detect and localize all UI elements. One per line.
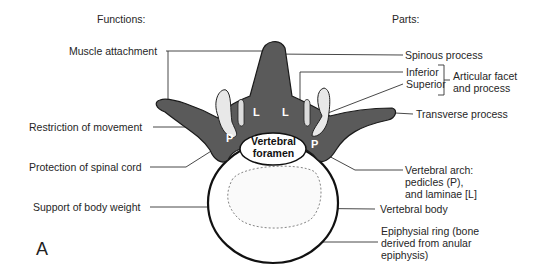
- lamina-label-left: L: [253, 106, 260, 118]
- lamina-label-right: L: [282, 106, 289, 118]
- function-muscle-attachment: Muscle attachment: [69, 45, 157, 57]
- left-inferior-facet: [238, 100, 244, 127]
- part-superior: Superior: [406, 78, 446, 90]
- figure-letter: A: [36, 239, 48, 260]
- part-inferior: Inferior: [406, 66, 439, 78]
- part-articular-facet: Articular facet and process: [453, 70, 517, 94]
- function-restriction-of-movement: Restriction of movement: [29, 121, 142, 133]
- part-vertebral-arch: Vertebral arch: pedicles (P), and lamina…: [405, 164, 477, 200]
- foramen-label: Vertebral foramen: [251, 135, 296, 159]
- pedicle-label-right: P: [311, 138, 318, 150]
- right-inferior-facet: [304, 100, 310, 127]
- body-cancellous: [228, 166, 321, 228]
- pedicle-label-left: P: [226, 132, 233, 144]
- part-vertebral-body: Vertebral body: [380, 203, 448, 215]
- function-protection-of-spinal-cord: Protection of spinal cord: [29, 161, 142, 173]
- part-spinous-process: Spinous process: [405, 49, 483, 61]
- function-support-of-body-weight: Support of body weight: [33, 201, 140, 213]
- part-transverse-process: Transverse process: [416, 108, 508, 120]
- part-epiphysial-ring: Epiphysial ring (bone derived from anula…: [381, 225, 479, 261]
